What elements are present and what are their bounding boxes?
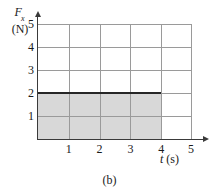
- y-tick-label-3: 3: [20, 64, 34, 76]
- x-axis-line: [37, 139, 204, 140]
- force-time-graph-figure: Fx (N) 5 4 3 2 1 1 2 3 4 5 t (s) (b): [0, 0, 219, 196]
- gridline-vertical-3: [130, 24, 131, 139]
- x-tick-label-3: 3: [122, 143, 138, 155]
- y-tick-label-1: 1: [20, 110, 34, 122]
- x-tick-label-2: 2: [92, 143, 108, 155]
- x-tick-label-1: 1: [61, 143, 77, 155]
- figure-caption: (b): [0, 173, 219, 188]
- gridline-horizontal-1: [38, 116, 192, 117]
- x-axis-arrow-icon: [203, 136, 209, 142]
- gridline-horizontal-4: [38, 47, 192, 48]
- x-tick-label-5: 5: [183, 143, 199, 155]
- y-axis-line: [37, 14, 38, 140]
- gridline-horizontal-3: [38, 70, 192, 71]
- gridline-vertical-2: [100, 24, 101, 139]
- force-trace-line: [38, 92, 161, 95]
- plot-area: [38, 24, 192, 139]
- y-tick-label-2: 2: [20, 87, 34, 99]
- gridline-vertical-5: [191, 24, 192, 139]
- y-axis-arrow-icon: [35, 11, 41, 17]
- y-tick-label-5: 5: [20, 18, 34, 30]
- gridline-horizontal-5: [38, 24, 192, 25]
- y-tick-label-4: 4: [20, 41, 34, 53]
- x-axis-label: t (s): [160, 152, 179, 167]
- x-axis-symbol: t: [160, 152, 163, 166]
- x-axis-unit: (s): [166, 152, 179, 166]
- gridline-vertical-4: [161, 24, 162, 139]
- gridline-vertical-1: [69, 24, 70, 139]
